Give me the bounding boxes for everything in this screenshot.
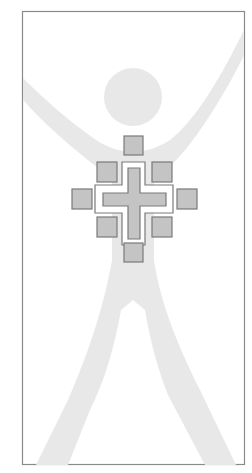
square-lower-right <box>152 217 172 237</box>
square-top <box>124 136 143 155</box>
square-left <box>72 189 92 209</box>
square-bottom <box>124 243 143 262</box>
square-right <box>177 189 197 209</box>
square-upper-left <box>97 162 117 182</box>
figure-logo <box>0 0 252 473</box>
square-upper-right <box>152 162 172 182</box>
square-lower-left <box>97 217 117 237</box>
head-icon <box>104 68 162 126</box>
